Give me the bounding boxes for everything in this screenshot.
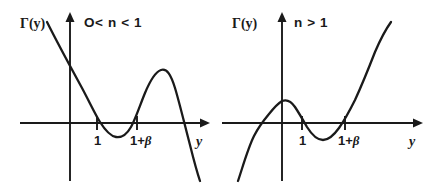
x-axis-label-left: y [194,134,203,149]
tick-label-1-plus-prefix-left: 1+ [130,133,145,148]
y-axis-arrowhead-left [66,12,75,22]
tick-label-beta-left: β [144,133,152,148]
x-axis-arrowhead-right [413,119,423,128]
x-tick-label-1-plus-beta-left: 1+β [130,133,152,148]
x-tick-label-1-plus-beta-right: 1+β [338,133,360,148]
condition-label-right: n > 1 [294,15,328,30]
x-axis-label-right: y [407,134,416,149]
curve-gamma-right [238,22,391,181]
plot-panel-right: Γ(y) n > 1 y 1 1+β [216,0,433,193]
figure-two-panel-gamma-plots: Γ(y) O< n < 1 y 1 1+β Γ(y) n > 1 y 1 [0,0,433,193]
function-label-left: Γ(y) [20,16,46,32]
function-label-right: Γ(y) [232,16,258,32]
plot-svg-left: Γ(y) O< n < 1 y 1 1+β [0,0,216,193]
tick-label-1-plus-prefix-right: 1+ [338,133,353,148]
x-tick-label-1-left: 1 [94,133,101,148]
x-tick-label-1-right: 1 [299,133,306,148]
plot-svg-right: Γ(y) n > 1 y 1 1+β [216,0,433,193]
tick-label-beta-right: β [352,133,360,148]
condition-label-left: O< n < 1 [84,15,142,30]
y-axis-arrowhead-right [278,12,287,22]
x-axis-arrowhead-left [200,119,210,128]
plot-panel-left: Γ(y) O< n < 1 y 1 1+β [0,0,216,193]
